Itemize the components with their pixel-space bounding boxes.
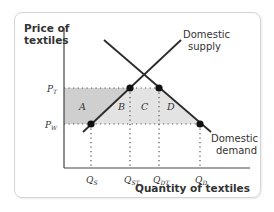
demand-label-line2: demand xyxy=(216,145,257,156)
price-label-pw: PW xyxy=(44,120,58,131)
y-axis-title-line2: textiles xyxy=(24,34,69,46)
price-label-pt: PT xyxy=(46,84,58,95)
supply-label-line1: Domestic xyxy=(183,29,230,40)
point-qdt xyxy=(155,84,162,91)
quantity-label-qs: QS xyxy=(86,175,98,186)
area-d-label: D xyxy=(166,101,175,112)
area-c-label: C xyxy=(141,101,149,112)
area-a-label: A xyxy=(78,101,86,112)
tariff-diagram: A B C D Price of textiles Quantity of te… xyxy=(0,0,274,212)
quantity-label-qst: QST xyxy=(124,175,141,186)
y-axis-title-line1: Price of xyxy=(24,22,70,34)
point-qst xyxy=(126,84,133,91)
point-qs xyxy=(87,120,94,127)
point-qd xyxy=(196,120,203,127)
supply-label-line2: supply xyxy=(188,41,221,52)
area-b-label: B xyxy=(117,101,125,112)
quantity-label-qdt: QDT xyxy=(153,175,170,186)
demand-label-line1: Domestic xyxy=(211,133,258,144)
quantity-label-qd: QD xyxy=(195,175,207,186)
